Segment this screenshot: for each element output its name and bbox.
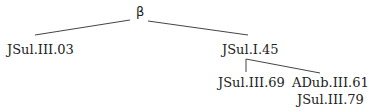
leaf-adub-iii-61: ADub.III.61 [292, 76, 369, 90]
leaf-jsul-iii-69: JSul.III.69 [218, 76, 285, 90]
edge-root-left [35, 20, 130, 35]
leaf-jsul-iii-03: JSul.III.03 [7, 43, 74, 57]
node-jsul-i-45: JSul.I.45 [222, 43, 279, 57]
edge-root-right [148, 21, 248, 35]
edge-node-right [246, 59, 320, 73]
leaf-jsul-iii-79: JSul.III.79 [297, 93, 364, 107]
root-node: β [136, 5, 144, 19]
